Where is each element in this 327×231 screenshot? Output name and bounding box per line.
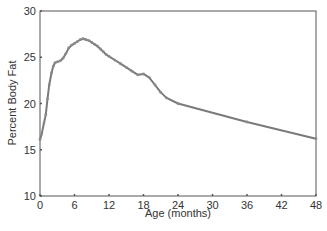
y-tick-label: 10 bbox=[24, 190, 36, 202]
x-tick-label: 0 bbox=[37, 199, 43, 211]
data-point bbox=[52, 65, 55, 68]
line-chart: 1015202530 0612182430364248 Age (months)… bbox=[0, 0, 327, 231]
data-point bbox=[39, 138, 42, 141]
data-point bbox=[119, 62, 122, 65]
y-tick-label: 20 bbox=[24, 98, 36, 110]
data-point bbox=[85, 38, 88, 41]
data-point bbox=[73, 42, 76, 45]
x-tick-label: 48 bbox=[310, 199, 322, 211]
data-point bbox=[62, 57, 65, 60]
data-point bbox=[159, 91, 162, 94]
data-point bbox=[44, 113, 47, 116]
data-point bbox=[99, 48, 102, 51]
data-point bbox=[70, 44, 73, 47]
data-point bbox=[96, 45, 99, 48]
data-point bbox=[43, 122, 46, 125]
y-tick-label: 25 bbox=[24, 51, 36, 63]
data-point bbox=[76, 40, 79, 43]
data-point bbox=[87, 39, 90, 42]
data-point bbox=[108, 55, 111, 58]
data-point bbox=[148, 76, 151, 79]
data-point bbox=[142, 73, 145, 76]
data-point bbox=[56, 60, 59, 63]
data-point bbox=[315, 137, 318, 140]
data-point-markers bbox=[39, 37, 318, 141]
y-tick-label: 15 bbox=[24, 144, 36, 156]
data-point bbox=[154, 84, 157, 87]
body-fat-line bbox=[40, 39, 316, 140]
data-point bbox=[177, 102, 180, 105]
data-point bbox=[93, 43, 96, 46]
data-point bbox=[136, 73, 139, 76]
data-point bbox=[40, 133, 43, 136]
x-tick-label: 6 bbox=[71, 199, 77, 211]
data-point bbox=[105, 53, 108, 56]
data-point bbox=[90, 41, 93, 44]
data-point bbox=[131, 70, 134, 73]
data-point bbox=[246, 121, 249, 124]
data-point bbox=[50, 72, 53, 75]
data-point bbox=[165, 97, 168, 100]
data-point bbox=[102, 50, 105, 53]
x-tick-label: 12 bbox=[103, 199, 115, 211]
data-point bbox=[64, 52, 67, 55]
y-axis-ticks: 1015202530 bbox=[24, 5, 42, 202]
data-point bbox=[113, 59, 116, 62]
y-tick-label: 30 bbox=[24, 5, 36, 17]
data-point bbox=[46, 97, 49, 100]
data-point bbox=[59, 60, 62, 63]
data-point bbox=[48, 84, 51, 87]
y-axis-label: Percent Body Fat bbox=[6, 61, 18, 146]
x-tick-label: 42 bbox=[275, 199, 287, 211]
data-point bbox=[67, 47, 70, 50]
data-point bbox=[79, 38, 82, 41]
data-point bbox=[82, 37, 85, 40]
x-tick-label: 36 bbox=[241, 199, 253, 211]
data-point bbox=[125, 66, 128, 69]
x-axis-label: Age (months) bbox=[145, 207, 211, 219]
